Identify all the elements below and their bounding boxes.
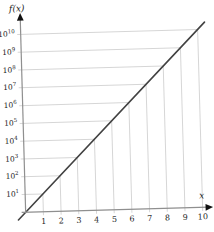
v-gridline xyxy=(146,84,150,212)
v-gridline xyxy=(60,176,61,215)
x-tick-label: 3 xyxy=(71,216,87,225)
y-tick-exponent: 10 xyxy=(8,28,15,34)
h-gridline xyxy=(17,29,197,34)
x-tick-label: 10 xyxy=(195,212,211,221)
x-tick-label: 4 xyxy=(89,215,105,224)
v-gridline xyxy=(163,66,167,212)
y-tick-label: 104 xyxy=(1,136,18,146)
v-gridline xyxy=(94,139,96,214)
y-tick-label: 109 xyxy=(0,47,15,57)
x-axis-arrow-icon xyxy=(205,204,213,211)
y-tick-label: 106 xyxy=(0,101,17,111)
y-tick-label: 102 xyxy=(2,172,19,182)
y-tick-label: 101 xyxy=(2,190,19,200)
y-tick-label: 108 xyxy=(0,65,16,75)
y-tick-label: 1010 xyxy=(0,30,15,40)
h-gridline xyxy=(18,66,163,70)
v-gridline xyxy=(180,48,185,212)
x-axis-line xyxy=(22,207,208,212)
h-gridline xyxy=(20,139,94,141)
y-axis-arrow-icon xyxy=(17,13,24,21)
y-tick-exponent: 6 xyxy=(13,99,17,105)
x-tick-label: 1 xyxy=(35,217,51,226)
h-gridline xyxy=(19,84,146,88)
x-tick-label: 7 xyxy=(142,214,158,223)
x-tick-label: 9 xyxy=(177,213,193,222)
y-tick-exponent: 2 xyxy=(15,170,19,176)
x-tick-label: 2 xyxy=(53,216,69,225)
y-tick-exponent: 9 xyxy=(12,46,16,52)
v-gridline xyxy=(77,157,79,214)
v-gridline xyxy=(129,103,132,213)
y-tick-label: 107 xyxy=(0,83,16,93)
y-tick-exponent: 1 xyxy=(15,188,19,194)
h-gridline xyxy=(18,48,181,53)
h-gridline xyxy=(21,157,78,159)
y-tick-exponent: 8 xyxy=(12,64,16,70)
y-axis-line xyxy=(20,18,25,213)
y-tick-exponent: 5 xyxy=(13,117,17,123)
y-tick-exponent: 7 xyxy=(13,81,17,87)
x-tick-label: 8 xyxy=(159,213,175,222)
y-tick-exponent: 3 xyxy=(14,153,18,159)
v-gridline xyxy=(198,29,203,210)
plot-canvas xyxy=(0,0,214,232)
y-tick-label: 105 xyxy=(0,119,17,129)
h-gridline xyxy=(21,176,60,177)
h-gridline xyxy=(19,103,129,106)
y-tick-exponent: 4 xyxy=(14,135,18,141)
h-gridline xyxy=(20,121,112,124)
axes xyxy=(16,8,213,216)
y-axis-title: f(x) xyxy=(9,3,25,13)
v-gridline xyxy=(112,121,115,213)
x-tick-label: 5 xyxy=(106,215,122,224)
y-tick-label: 103 xyxy=(1,154,18,164)
x-axis-title: x xyxy=(199,190,204,200)
x-tick-label: 6 xyxy=(124,214,140,223)
semilog-plot-figure: f(x) x 1011021031041051061071081091010 1… xyxy=(0,0,214,232)
